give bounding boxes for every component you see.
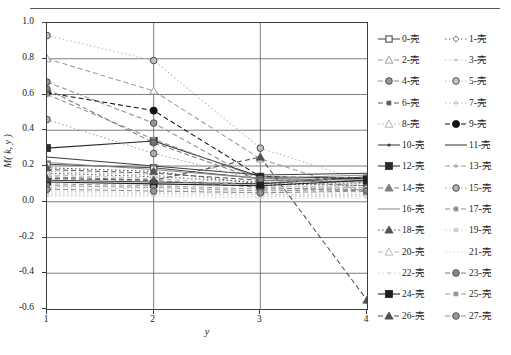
legend-key-icon [444, 53, 468, 67]
legend-key-icon [444, 309, 468, 323]
legend-item[interactable]: 6-壳 [377, 92, 444, 113]
legend-item[interactable]: 2-壳 [377, 49, 444, 70]
y-tick-mark [42, 201, 46, 202]
x-tick-label: 2 [138, 314, 168, 324]
legend-item[interactable]: 13-壳 [444, 156, 511, 177]
legend-key-icon [444, 223, 468, 237]
y-tick-mark [42, 22, 46, 23]
legend-item[interactable]: 27-壳 [444, 305, 511, 326]
series-4 [47, 79, 367, 189]
legend-row: 20-壳21-壳 [377, 241, 511, 262]
x-tick-mark [46, 310, 47, 314]
legend-key-icon [377, 309, 401, 323]
legend-label: 23-壳 [469, 268, 492, 278]
legend-item[interactable]: 21-壳 [444, 241, 511, 262]
y-tick-label: 1.0 [22, 17, 34, 27]
legend-label: 24-壳 [402, 289, 425, 299]
legend-item[interactable]: 14-壳 [377, 177, 444, 198]
legend-row: 6-壳7-壳 [377, 92, 511, 113]
legend-item[interactable]: 25-壳 [444, 284, 511, 305]
y-tick-label: 0.2 [22, 160, 34, 170]
legend-label: 10-壳 [402, 140, 425, 150]
legend-item[interactable]: 18-壳 [377, 220, 444, 241]
legend-item[interactable]: 1-壳 [444, 28, 511, 49]
legend-row: 0-壳1-壳 [377, 28, 511, 49]
legend-label: 15-壳 [469, 183, 492, 193]
legend-label: 13-壳 [469, 161, 492, 171]
legend-row: 16-壳17-壳 [377, 198, 511, 219]
series-26 [47, 153, 367, 303]
legend-key-icon [377, 138, 401, 152]
legend-key-icon [444, 159, 468, 173]
legend-key-icon [444, 74, 468, 88]
legend-label: 27-壳 [469, 311, 492, 321]
legend-item[interactable]: 22-壳 [377, 262, 444, 283]
legend-label: 22-壳 [402, 268, 425, 278]
x-tick-label: 1 [31, 314, 61, 324]
legend-row: 26-壳27-壳 [377, 305, 511, 326]
legend-item[interactable]: 19-壳 [444, 220, 511, 241]
legend-key-icon [377, 53, 401, 67]
legend-item[interactable]: 26-壳 [377, 305, 444, 326]
legend-item[interactable]: 10-壳 [377, 135, 444, 156]
legend-row: 4-壳5-壳 [377, 71, 511, 92]
legend-item[interactable]: 20-壳 [377, 241, 444, 262]
y-tick-mark [42, 94, 46, 95]
legend-label: 17-壳 [469, 204, 492, 214]
legend-item[interactable]: 12-壳 [377, 156, 444, 177]
y-tick-label: 0.4 [22, 124, 34, 134]
legend-item[interactable]: 23-壳 [444, 262, 511, 283]
legend-key-icon [377, 96, 401, 110]
legend-key-icon [444, 32, 468, 46]
top-horizontal-rule [30, 8, 500, 9]
y-tick-mark [42, 237, 46, 238]
legend: 0-壳1-壳2-壳3-壳4-壳5-壳6-壳7-壳8-壳9-壳10-壳11-壳12… [377, 28, 511, 328]
legend-item[interactable]: 4-壳 [377, 71, 444, 92]
legend-label: 8-壳 [402, 119, 420, 129]
legend-key-icon [377, 159, 401, 173]
legend-label: 11-壳 [469, 140, 491, 150]
legend-key-icon [377, 117, 401, 131]
legend-label: 20-壳 [402, 247, 425, 257]
y-tick-label: 0.8 [22, 53, 34, 63]
legend-item[interactable]: 7-壳 [444, 92, 511, 113]
legend-item[interactable]: 8-壳 [377, 113, 444, 134]
legend-label: 7-壳 [469, 98, 487, 108]
legend-label: 6-壳 [402, 98, 420, 108]
legend-row: 14-壳15-壳 [377, 177, 511, 198]
x-axis-label: y [46, 326, 368, 337]
legend-label: 3-壳 [469, 55, 487, 65]
y-tick-label: 0.0 [22, 196, 34, 206]
legend-item[interactable]: 5-壳 [444, 71, 511, 92]
legend-label: 4-壳 [402, 76, 420, 86]
y-tick-label: -0.4 [19, 267, 34, 277]
legend-label: 9-壳 [469, 119, 487, 129]
legend-key-icon [377, 266, 401, 280]
legend-label: 1-壳 [469, 34, 487, 44]
y-tick-label: -0.6 [19, 303, 34, 313]
legend-item[interactable]: 11-壳 [444, 135, 511, 156]
legend-label: 0-壳 [402, 34, 420, 44]
legend-item[interactable]: 24-壳 [377, 284, 444, 305]
y-tick-mark [42, 129, 46, 130]
legend-item[interactable]: 17-壳 [444, 198, 511, 219]
legend-item[interactable]: 15-壳 [444, 177, 511, 198]
legend-item[interactable]: 16-壳 [377, 198, 444, 219]
legend-item[interactable]: 0-壳 [377, 28, 444, 49]
legend-row: 8-壳9-壳 [377, 113, 511, 134]
x-tick-mark [153, 310, 154, 314]
legend-label: 14-壳 [402, 183, 425, 193]
legend-label: 25-壳 [469, 289, 492, 299]
legend-key-icon [444, 266, 468, 280]
y-tick-mark [42, 165, 46, 166]
legend-item[interactable]: 9-壳 [444, 113, 511, 134]
legend-row: 10-壳11-壳 [377, 135, 511, 156]
legend-item[interactable]: 3-壳 [444, 49, 511, 70]
legend-label: 2-壳 [402, 55, 420, 65]
legend-label: 16-壳 [402, 204, 425, 214]
legend-key-icon [444, 96, 468, 110]
legend-key-icon [377, 74, 401, 88]
legend-row: 24-壳25-壳 [377, 284, 511, 305]
y-tick-mark [42, 58, 46, 59]
legend-key-icon [377, 202, 401, 216]
